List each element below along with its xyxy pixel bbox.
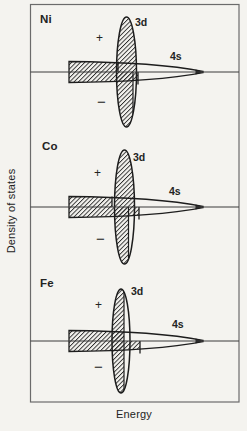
- spin-plus-label: +: [96, 31, 103, 45]
- spin-minus-label: −: [97, 93, 106, 110]
- metal-label: Fe: [40, 277, 54, 289]
- y-axis-title: Density of states: [5, 168, 17, 253]
- band-4s-label: 4s: [172, 318, 184, 330]
- metal-label: Ni: [40, 13, 52, 25]
- band-3d-label: 3d: [131, 285, 143, 297]
- spin-minus-label: −: [96, 230, 105, 247]
- spin-minus-label: −: [94, 358, 103, 375]
- band-3d-label: 3d: [133, 151, 145, 163]
- band-4s-label: 4s: [169, 185, 181, 197]
- band-4s-label: 4s: [170, 50, 182, 62]
- density-of-states-figure: Ni 3d 4s + − Co 3d 4s + −: [0, 0, 247, 431]
- figure-canvas: Ni 3d 4s + − Co 3d 4s + −: [0, 0, 247, 431]
- x-axis-title: Energy: [116, 408, 152, 420]
- spin-plus-label: +: [95, 298, 102, 312]
- spin-plus-label: +: [94, 166, 101, 180]
- metal-label: Co: [42, 140, 58, 152]
- band-3d-label: 3d: [135, 16, 147, 28]
